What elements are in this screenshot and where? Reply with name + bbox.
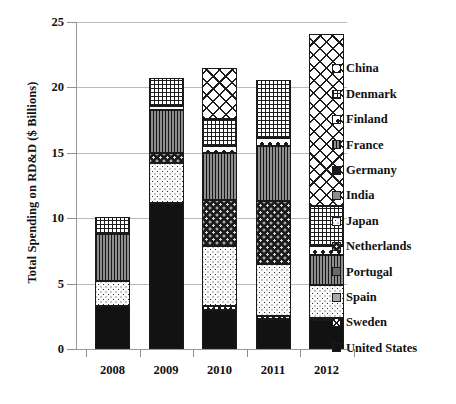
y-tick-label-5: 5 [58,276,64,291]
bar-segment-2011-france[interactable] [256,146,291,201]
legend-item-portugal[interactable]: Portugal [332,259,454,284]
legend-label-spain: Spain [346,291,377,304]
y-tick-15 [67,153,76,154]
x-tick-label-2010: 2010 [207,363,232,378]
bar-segment-2011-united-states[interactable] [256,319,291,349]
x-tick-2010 [193,349,194,357]
spain-swatch [332,293,341,302]
y-tick-25 [67,22,76,23]
bar-segment-2011-japan[interactable] [256,264,291,316]
bar-segment-2009-japan[interactable] [149,163,184,202]
legend-label-germany: Germany [346,164,397,177]
legend-label-france: France [346,139,383,152]
legend-label-japan: Japan [346,215,379,228]
portugal-swatch [332,267,341,276]
x-tick-2008 [86,349,87,357]
bar-segment-2009-united-states[interactable] [149,203,184,349]
bar-segment-2011-denmark[interactable] [256,80,291,139]
legend-label-united-states: United States [346,342,417,355]
gridline-25 [77,22,347,23]
y-tick-0 [67,349,76,350]
x-tick-2011 [247,349,248,357]
china-swatch [332,64,341,73]
bar-segment-2009-finland[interactable] [149,106,184,110]
sweden-swatch [332,318,341,327]
legend-label-india: India [346,189,375,202]
legend-item-france[interactable]: France [332,132,454,157]
legend-label-denmark: Denmark [346,88,397,101]
y-tick-20 [67,87,76,88]
legend-item-sweden[interactable]: Sweden [332,310,454,335]
legend-label-netherlands: Netherlands [346,240,411,253]
bar-2009[interactable] [149,78,184,349]
y-tick-label-0: 0 [58,342,64,357]
legend-label-finland: Finland [346,113,388,126]
united-states-swatch [332,343,341,352]
bar-segment-2009-netherlands[interactable] [149,153,184,163]
bar-segment-2010-netherlands[interactable] [202,200,237,246]
legend-label-china: China [346,62,379,75]
legend-label-sweden: Sweden [346,316,387,329]
japan-swatch [332,217,341,226]
legend-item-spain[interactable]: Spain [332,285,454,310]
y-tick-label-25: 25 [52,15,65,30]
chart-figure: Total Spending on RD&D ($ Billions) 0510… [0,0,456,404]
x-tick-label-2011: 2011 [261,363,285,378]
x-tick-2012 [300,349,301,357]
finland-swatch [332,115,341,124]
denmark-swatch [332,90,341,99]
bar-segment-2008-united-states[interactable] [95,306,130,349]
bar-segment-2010-finland[interactable] [202,146,237,153]
bar-segment-2010-japan[interactable] [202,246,237,306]
chart-legend: ChinaDenmarkFinlandFranceGermanyIndiaJap… [332,56,454,361]
bar-segment-2010-sweden[interactable] [202,306,237,310]
y-tick-5 [67,284,76,285]
x-tick-label-2008: 2008 [100,363,125,378]
bar-segment-2008-france[interactable] [95,234,130,281]
bar-segment-2011-finland[interactable] [256,138,291,146]
legend-item-united-states[interactable]: United States [332,335,454,360]
legend-item-japan[interactable]: Japan [332,208,454,233]
bar-segment-2009-denmark[interactable] [149,78,184,105]
bar-segment-2008-japan[interactable] [95,281,130,306]
y-axis-title: Total Spending on RD&D ($ Billions) [25,38,40,328]
bar-segment-2010-france[interactable] [202,153,237,200]
bar-2010[interactable] [202,68,237,349]
bar-segment-2011-sweden[interactable] [256,316,291,319]
plot-area: 0510152025 20082009201020112012 [76,22,347,350]
bar-segment-2011-netherlands[interactable] [256,201,291,264]
legend-item-netherlands[interactable]: Netherlands [332,234,454,259]
bar-segment-2008-denmark[interactable] [95,217,130,234]
y-tick-label-10: 10 [52,211,65,226]
legend-item-germany[interactable]: Germany [332,158,454,183]
x-tick-label-2009: 2009 [154,363,179,378]
bar-segment-2010-united-states[interactable] [202,310,237,349]
france-swatch [332,140,341,149]
bar-2008[interactable] [95,217,130,349]
legend-item-denmark[interactable]: Denmark [332,81,454,106]
x-tick-2009 [140,349,141,357]
bar-2011[interactable] [256,80,291,349]
legend-item-india[interactable]: India [332,183,454,208]
india-swatch [332,191,341,200]
germany-swatch [332,166,341,175]
bar-segment-2010-denmark[interactable] [202,119,237,146]
bar-segment-2010-china[interactable] [202,68,237,119]
legend-item-finland[interactable]: Finland [332,107,454,132]
y-tick-10 [67,218,76,219]
legend-item-china[interactable]: China [332,56,454,81]
y-tick-label-20: 20 [52,80,65,95]
y-tick-label-15: 15 [52,145,65,160]
x-tick-label-2012: 2012 [314,363,339,378]
netherlands-swatch [332,242,341,251]
legend-label-portugal: Portugal [346,266,393,279]
bar-segment-2009-france[interactable] [149,110,184,153]
